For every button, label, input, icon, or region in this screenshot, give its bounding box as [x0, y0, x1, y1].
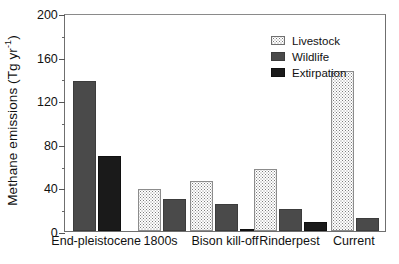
- bar-livestock-bison-kill-off: [190, 181, 213, 231]
- bar-wildlife-bison-kill-off: [215, 204, 238, 231]
- bar-extirpation-rinderpest: [304, 222, 327, 231]
- plot-area: 04080120160200 LivestockWildlifeExtirpat…: [64, 14, 386, 232]
- y-axis-title-tail: ): [5, 35, 20, 40]
- bar-wildlife-current: [356, 218, 379, 231]
- methane-emissions-bar-chart: Methane emissions (Tg yr-1) 040801201602…: [0, 0, 399, 264]
- y-axis-tick-label: 200: [37, 8, 62, 22]
- y-axis-tick-minor: [62, 124, 66, 125]
- bar-wildlife-rinderpest: [279, 209, 302, 231]
- legend-swatch-livestock: [271, 36, 285, 45]
- legend-item-livestock: Livestock: [271, 34, 346, 47]
- y-axis-tick-label: 80: [44, 139, 62, 153]
- y-axis-title: Methane emissions (Tg yr-1): [0, 0, 24, 240]
- x-axis-label-end-pleistocene: End-pleistocene: [51, 234, 141, 248]
- legend-swatch-extirpation: [271, 68, 285, 77]
- bar-livestock-current: [331, 71, 354, 231]
- legend-label-livestock: Livestock: [292, 35, 340, 47]
- legend-item-wildlife: Wildlife: [271, 50, 346, 63]
- y-axis-title-main: Methane emissions (Tg yr: [5, 48, 20, 206]
- y-axis-tick-label: 120: [37, 95, 62, 109]
- y-axis-tick-minor: [62, 37, 66, 38]
- x-axis-label-current: Current: [333, 234, 375, 248]
- x-axis-label-bison-kill-off: Bison kill-off: [191, 234, 258, 248]
- chart-legend: LivestockWildlifeExtirpation: [271, 34, 346, 79]
- bar-livestock-1800s: [138, 189, 161, 232]
- bar-livestock-rinderpest: [254, 169, 277, 231]
- y-axis-tick-label: 160: [37, 52, 62, 66]
- legend-label-wildlife: Wildlife: [292, 51, 329, 63]
- y-axis-tick-minor: [62, 168, 66, 169]
- legend-label-extirpation: Extirpation: [292, 67, 346, 79]
- legend-item-extirpation: Extirpation: [271, 66, 346, 79]
- y-axis-title-superscript: -1: [3, 39, 13, 47]
- bar-wildlife-1800s: [163, 199, 186, 231]
- x-axis-label-rinderpest: Rinderpest: [259, 234, 319, 248]
- legend-swatch-wildlife: [271, 52, 285, 61]
- y-axis-tick-minor: [62, 80, 66, 81]
- y-axis-tick-label: 40: [44, 182, 62, 196]
- y-axis-tick-minor: [62, 211, 66, 212]
- x-axis-label-1800s: 1800s: [144, 234, 178, 248]
- bar-extirpation-end-pleistocene: [98, 156, 121, 231]
- bar-wildlife-end-pleistocene: [73, 81, 96, 231]
